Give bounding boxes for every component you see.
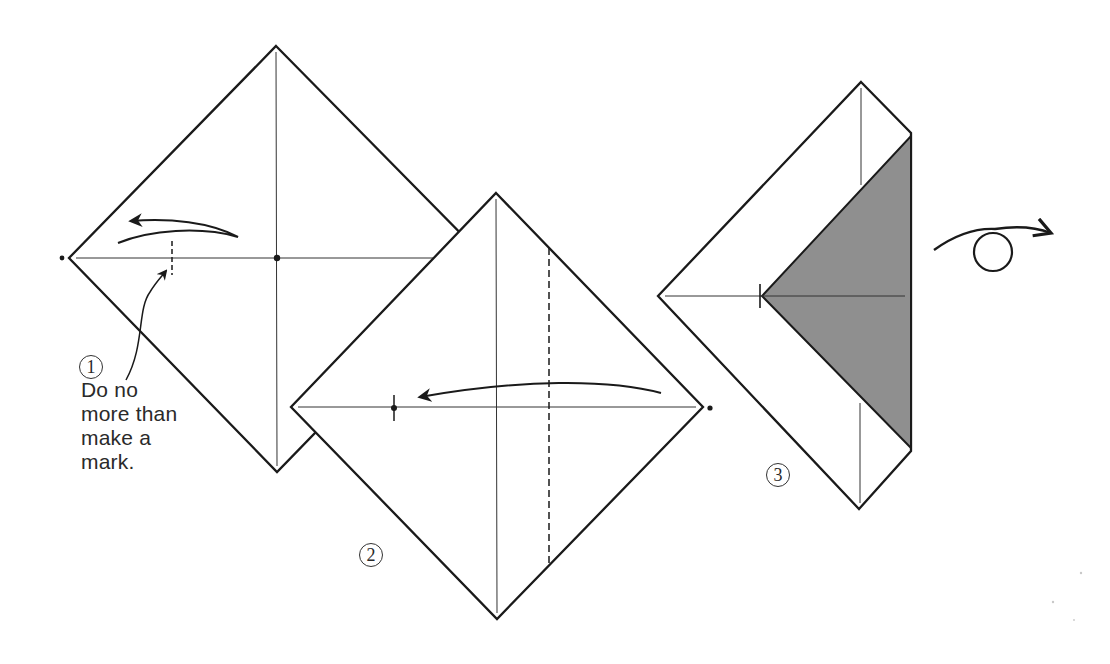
corner-dot-step-1 [60,256,65,261]
step-3-diagram [658,82,911,509]
center-dot [274,255,280,261]
origami-diagram [0,0,1110,664]
turn-over-arrow-icon [934,227,1051,250]
note-line-1: Do no [81,378,177,402]
note-line-3: make a [81,426,177,450]
instruction-note: Do no more than make a mark. [81,378,177,474]
note-line-4: mark. [81,450,177,474]
note-line-2: more than [81,402,177,426]
pinch-mark-dot [391,405,397,411]
turn-over-symbol [934,227,1051,271]
corner-dot-step-2 [707,405,712,410]
scan-specks [1052,572,1082,621]
step-number-2: 2 [359,543,383,567]
step-number-3: 3 [766,463,790,487]
step-number-1: 1 [79,355,103,379]
turn-over-circle-icon [974,233,1012,271]
